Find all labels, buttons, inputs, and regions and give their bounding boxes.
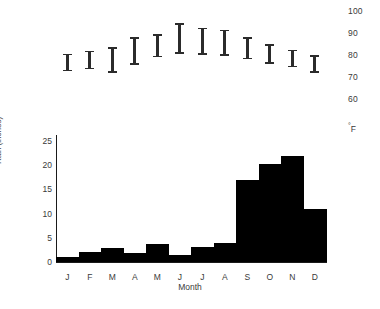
temp-low-cap xyxy=(310,71,319,73)
rain-bar-july xyxy=(191,247,214,262)
x-tick-june: J xyxy=(178,272,182,282)
rain-bar-december xyxy=(304,209,327,262)
y-tick-25: 25 xyxy=(43,136,52,146)
rain-bar-february xyxy=(79,252,102,262)
temp-low-cap xyxy=(108,71,117,73)
temp-high-cap xyxy=(85,51,94,53)
temp-tick-100: 100 xyxy=(348,6,363,16)
y-tick-10: 10 xyxy=(43,209,52,219)
temp-range-bar-march xyxy=(111,47,114,72)
y-tick-20: 20 xyxy=(43,160,52,170)
temp-low-cap xyxy=(63,70,72,72)
temp-range-bar-february xyxy=(88,51,91,70)
temp-low-cap xyxy=(243,58,252,60)
rain-bar-september xyxy=(236,180,259,262)
x-tick-february: F xyxy=(87,272,92,282)
x-tick-october: O xyxy=(266,272,273,282)
temp-range-bar-may xyxy=(156,34,159,57)
temp-high-cap xyxy=(265,44,274,46)
x-tick-august: A xyxy=(222,272,228,282)
temp-range-bar-july xyxy=(201,28,204,56)
plot-area: 0510152025 JFMAMJJASOND xyxy=(56,136,326,262)
x-tick-may: M xyxy=(154,272,161,282)
temp-high-cap xyxy=(310,55,319,57)
rain-bar-november xyxy=(281,156,304,262)
temp-tick-90: 90 xyxy=(348,28,358,38)
rainfall-plot: Rain (inches) 0510152025 JFMAMJJASOND Mo… xyxy=(0,130,380,309)
temp-high-cap xyxy=(243,37,252,39)
temp-tick-60: 60 xyxy=(348,94,358,104)
temp-low-cap xyxy=(265,62,274,64)
temp-low-cap xyxy=(198,53,207,55)
y-axis-label: Rain (inches) xyxy=(0,117,3,164)
rain-bar-april xyxy=(124,253,147,262)
temp-low-cap xyxy=(175,52,184,54)
temperature-range-plot: 100 90 80 70 60 °F xyxy=(0,0,380,130)
x-tick-november: N xyxy=(289,272,295,282)
temp-low-cap xyxy=(153,56,162,58)
x-axis-label: Month xyxy=(0,282,380,292)
temp-low-cap xyxy=(220,54,229,56)
rain-bar-march xyxy=(101,248,124,262)
x-tick-march: M xyxy=(109,272,116,282)
climate-chart: 100 90 80 70 60 °F Rain (inches) 0510152… xyxy=(0,0,380,309)
temp-range-bar-september xyxy=(246,37,249,59)
rain-bar-january xyxy=(56,257,79,262)
temp-range-bar-october xyxy=(268,44,271,64)
temp-high-cap xyxy=(220,30,229,32)
temp-high-cap xyxy=(108,47,117,49)
rain-bar-august xyxy=(214,243,237,262)
temp-high-cap xyxy=(63,54,72,56)
temperature-axis: 100 90 80 70 60 °F xyxy=(348,0,380,140)
temp-high-cap xyxy=(130,37,139,39)
x-tick-december: D xyxy=(312,272,318,282)
temp-range-bar-december xyxy=(313,55,316,73)
x-axis-line xyxy=(56,262,327,263)
x-tick-september: S xyxy=(244,272,250,282)
y-tick-15: 15 xyxy=(43,184,52,194)
temp-high-cap xyxy=(175,23,184,25)
temp-low-cap xyxy=(85,68,94,70)
y-tick-0: 0 xyxy=(47,257,52,267)
temp-range-bar-june xyxy=(178,23,181,54)
rain-bar-october xyxy=(259,164,282,262)
temp-tick-80: 80 xyxy=(348,50,358,60)
temp-range-bar-january xyxy=(66,54,69,72)
x-tick-april: A xyxy=(132,272,138,282)
rain-bar-june xyxy=(169,255,192,262)
temp-high-cap xyxy=(153,34,162,36)
x-tick-july: J xyxy=(200,272,204,282)
temp-tick-70: 70 xyxy=(348,72,358,82)
temp-high-cap xyxy=(198,28,207,30)
x-tick-january: J xyxy=(65,272,69,282)
temp-range-bar-november xyxy=(291,50,294,68)
temp-range-bar-april xyxy=(133,37,136,65)
temp-low-cap xyxy=(130,63,139,65)
temp-range-bar-august xyxy=(223,30,226,56)
temp-low-cap xyxy=(288,66,297,68)
rain-bar-may xyxy=(146,244,169,262)
y-tick-5: 5 xyxy=(47,233,52,243)
temp-high-cap xyxy=(288,50,297,52)
